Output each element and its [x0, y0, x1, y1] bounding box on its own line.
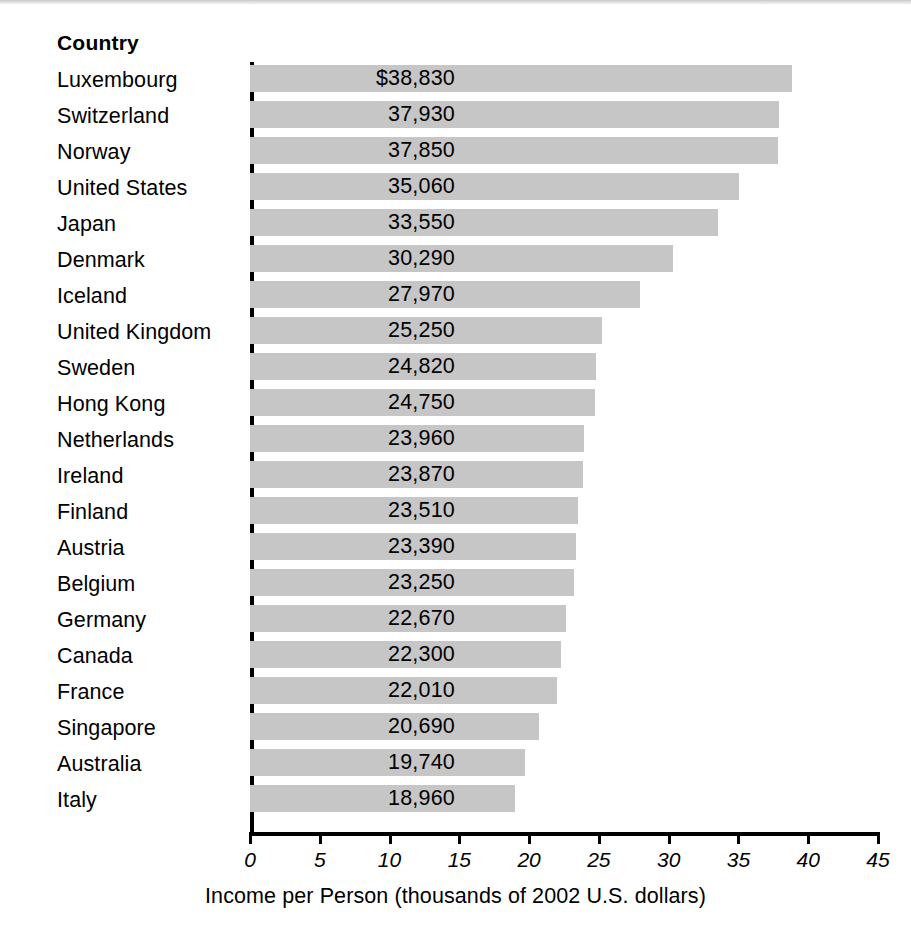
country-label: Norway: [57, 134, 247, 170]
x-axis-tick-label: 10: [378, 848, 401, 872]
country-label: Netherlands: [57, 422, 247, 458]
bar-value-label: 23,390: [250, 533, 455, 560]
bar-row: 33,550: [250, 206, 878, 242]
x-axis-tick: [737, 832, 740, 844]
bar-value-label: 37,850: [250, 137, 455, 164]
bar-value-label: 20,690: [250, 713, 455, 740]
plot-area: $38,83037,93037,85035,06033,55030,29027,…: [250, 62, 878, 832]
country-label: Switzerland: [57, 98, 247, 134]
bar-row: 35,060: [250, 170, 878, 206]
x-axis-tick: [528, 832, 531, 844]
x-axis-tick: [807, 832, 810, 844]
bar-value-label: 22,670: [250, 605, 455, 632]
bar-row: 30,290: [250, 242, 878, 278]
bar-value-label: 33,550: [250, 209, 455, 236]
x-axis-tick-label: 0: [244, 848, 256, 872]
x-axis-tick: [249, 832, 252, 844]
country-label: Italy: [57, 782, 247, 818]
bar-row: 23,960: [250, 422, 878, 458]
bar-value-label: 18,960: [250, 785, 455, 812]
x-axis-tick-label: 30: [657, 848, 680, 872]
bar-value-label: 24,820: [250, 353, 455, 380]
bar-value-label: 23,250: [250, 569, 455, 596]
country-label: Singapore: [57, 710, 247, 746]
bar-value-label: 23,510: [250, 497, 455, 524]
country-label: United Kingdom: [57, 314, 247, 350]
bar-value-label: 24,750: [250, 389, 455, 416]
country-column-header: Country: [57, 31, 139, 55]
x-axis-tick: [877, 832, 880, 844]
x-axis-tick: [389, 832, 392, 844]
x-axis-tick-label: 15: [448, 848, 471, 872]
bar-value-label: 23,960: [250, 425, 455, 452]
x-axis-tick-label: 25: [587, 848, 610, 872]
bar-row: 24,750: [250, 386, 878, 422]
bar-row: 22,300: [250, 638, 878, 674]
bar-value-label: 19,740: [250, 749, 455, 776]
country-label: Germany: [57, 602, 247, 638]
bar-row: 37,850: [250, 134, 878, 170]
country-label: Luxembourg: [57, 62, 247, 98]
x-axis-tick-label: 40: [797, 848, 820, 872]
bar-row: 27,970: [250, 278, 878, 314]
x-axis-line: [250, 832, 878, 836]
x-axis-tick-label: 45: [866, 848, 889, 872]
bar-value-label: 37,930: [250, 101, 455, 128]
x-axis-tick: [319, 832, 322, 844]
bar-value-label: 30,290: [250, 245, 455, 272]
x-axis-tick: [668, 832, 671, 844]
bar-value-label: 35,060: [250, 173, 455, 200]
country-label-list: LuxembourgSwitzerlandNorwayUnited States…: [57, 62, 247, 818]
bar-row: 37,930: [250, 98, 878, 134]
bar-row: 23,390: [250, 530, 878, 566]
country-label: Austria: [57, 530, 247, 566]
bar-value-label: 22,010: [250, 677, 455, 704]
bar-value-label: $38,830: [250, 65, 455, 92]
bar-row: 18,960: [250, 782, 878, 818]
bar-value-label: 22,300: [250, 641, 455, 668]
country-label: Hong Kong: [57, 386, 247, 422]
x-axis-tick-label: 5: [314, 848, 326, 872]
country-label: Denmark: [57, 242, 247, 278]
country-label: Ireland: [57, 458, 247, 494]
country-label: Iceland: [57, 278, 247, 314]
x-axis-tick-label: 35: [727, 848, 750, 872]
country-label: United States: [57, 170, 247, 206]
country-label: France: [57, 674, 247, 710]
bar-row: 23,510: [250, 494, 878, 530]
country-label: Japan: [57, 206, 247, 242]
bar-row: $38,830: [250, 62, 878, 98]
bar-row: 23,250: [250, 566, 878, 602]
x-axis-tick: [598, 832, 601, 844]
x-axis-tick-label: 20: [517, 848, 540, 872]
chart-page: Country LuxembourgSwitzerlandNorwayUnite…: [0, 0, 911, 938]
country-label: Australia: [57, 746, 247, 782]
page-top-edge-band: [0, 0, 911, 5]
x-axis-tick: [458, 832, 461, 844]
country-label: Canada: [57, 638, 247, 674]
bar-value-label: 23,870: [250, 461, 455, 488]
bar-row: 19,740: [250, 746, 878, 782]
bar-row: 25,250: [250, 314, 878, 350]
country-label: Finland: [57, 494, 247, 530]
bar-row: 20,690: [250, 710, 878, 746]
bar-row: 22,670: [250, 602, 878, 638]
country-label: Sweden: [57, 350, 247, 386]
bar-row: 23,870: [250, 458, 878, 494]
bar-value-label: 27,970: [250, 281, 455, 308]
bar-row: 24,820: [250, 350, 878, 386]
country-label: Belgium: [57, 566, 247, 602]
bar-row: 22,010: [250, 674, 878, 710]
x-axis-title: Income per Person (thousands of 2002 U.S…: [0, 884, 911, 909]
bar-value-label: 25,250: [250, 317, 455, 344]
